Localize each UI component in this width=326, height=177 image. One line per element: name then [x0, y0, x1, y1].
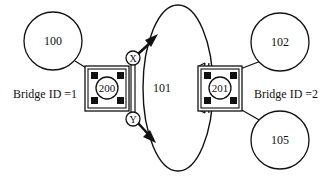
lan-105-label: 105 — [271, 133, 289, 147]
port-x: X — [126, 51, 140, 65]
port-icon — [91, 72, 98, 79]
lan-100: 100 — [24, 12, 82, 70]
lan-102-label: 102 — [271, 35, 289, 49]
port-icon — [117, 97, 124, 104]
bridge-201-label: 201 — [212, 82, 229, 94]
port-icon — [230, 72, 237, 79]
lan-102: 102 — [251, 13, 309, 71]
lan-100-label: 100 — [44, 34, 62, 48]
bridge-200: 200 — [85, 66, 129, 111]
link-102-bridge201 — [240, 61, 261, 69]
svg-text:X: X — [129, 53, 137, 64]
lan-105: 105 — [251, 111, 309, 169]
port-icon — [91, 97, 98, 104]
bridge-200-label: 200 — [99, 82, 116, 94]
port-y: Y — [126, 112, 140, 126]
bridge-id-1-label: Bridge ID =1 — [13, 87, 77, 101]
link-105-bridge201 — [240, 109, 261, 121]
bridge-id-2-label: Bridge ID =2 — [254, 87, 318, 101]
lan-101-label: 101 — [153, 81, 171, 95]
port-icon — [204, 97, 211, 104]
port-icon — [204, 72, 211, 79]
port-icon — [230, 97, 237, 104]
port-icon — [117, 72, 124, 79]
bridge-201: 201 — [198, 66, 242, 111]
network-diagram: 200 201 X Y 100 102 1 — [0, 0, 326, 177]
svg-text:Y: Y — [129, 114, 136, 125]
